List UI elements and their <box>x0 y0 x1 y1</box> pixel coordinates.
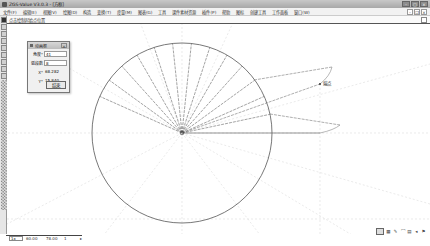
battery-icon[interactable]: ▤ <box>407 229 412 234</box>
line-tool-icon[interactable] <box>1 38 7 44</box>
info-tool-icon[interactable] <box>1 66 7 72</box>
dialog-title: 动画框 <box>35 43 47 49</box>
lower-wedge-top <box>270 114 340 125</box>
menu-graph[interactable]: 图表(G) <box>135 9 156 15</box>
lower-wedge-arc <box>320 125 340 133</box>
app-window: ZGS-Value V3.0.3 - [方框] – □ × 文件(F) 编辑(E… <box>0 0 430 246</box>
doc-close-button[interactable]: × <box>421 9 427 15</box>
menu-create-tool[interactable]: 创建工具 <box>247 9 269 15</box>
menu-file[interactable]: 文件(F) <box>0 9 20 15</box>
window-controls: – □ × <box>402 1 428 7</box>
flag-icon[interactable]: ⚑ <box>421 229 426 234</box>
title-bar: ZGS-Value V3.0.3 - [方框] – □ × <box>0 0 430 8</box>
geometry-drawing <box>7 24 430 234</box>
angle-input[interactable]: 41 <box>44 51 67 57</box>
doc-restore-button[interactable]: ❐ <box>414 9 420 15</box>
polygon-tool-icon[interactable] <box>1 45 7 51</box>
dialog-close-button[interactable]: × <box>61 43 67 48</box>
menu-transform[interactable]: 变换(T) <box>94 9 114 15</box>
window-title: ZGS-Value V3.0.3 - [方框] <box>9 1 64 7</box>
custom-tool-icon[interactable] <box>1 73 7 79</box>
menu-icons[interactable]: 图标 <box>233 9 247 15</box>
hint-bar: 点击绘制起始点位置 <box>7 16 430 24</box>
upper-wedge-top <box>254 67 332 80</box>
menu-view[interactable]: 视图(V) <box>40 9 60 15</box>
scroll-arrow-icon[interactable]: ▸ <box>80 236 82 241</box>
menu-measure[interactable]: 度量(M) <box>114 9 135 15</box>
x-row: X° 68.282 <box>28 68 69 76</box>
x-value: 68.282 <box>44 69 67 75</box>
maximize-button[interactable]: □ <box>411 1 419 7</box>
pen-icon[interactable]: ✎ <box>393 229 398 234</box>
toolbox-filler <box>1 80 7 210</box>
segments-input[interactable]: 8 <box>44 60 67 66</box>
close-button[interactable]: × <box>420 1 428 7</box>
menu-tools[interactable]: 工具 <box>155 9 169 15</box>
segments-label: 弧段数 <box>30 60 44 66</box>
document-controls: – ❐ × <box>407 9 427 15</box>
doc-minimize-button[interactable]: – <box>407 9 413 15</box>
point-tool-icon[interactable] <box>1 24 7 30</box>
animation-dialog: 动画框 × 角度° 41 弧段数 8 X° 68.282 Y° 15.840 结… <box>27 41 70 93</box>
menu-construct[interactable]: 构造 <box>80 9 94 15</box>
guide-lines <box>7 24 430 234</box>
end-point <box>319 83 321 85</box>
angle-row: 角度° 41 <box>28 50 69 58</box>
menu-panel[interactable]: 工作面板 <box>269 9 291 15</box>
menu-resources[interactable]: 课件素材资源 <box>169 9 199 15</box>
sketch-canvas[interactable]: 端点 <box>7 24 430 234</box>
minimize-button[interactable]: – <box>402 1 410 7</box>
spokes <box>100 44 270 134</box>
x-label: X° <box>30 70 44 75</box>
dialog-title-bar[interactable]: 动画框 × <box>28 42 69 49</box>
status-extra: 1 <box>64 236 67 241</box>
coord-y: 78.00 <box>46 236 57 241</box>
menu-bar: 文件(F) 编辑(E) 视图(V) 绘图(D) 构造 变换(T) 度量(M) 图… <box>0 8 430 16</box>
keyboard-icon[interactable]: ▦ <box>386 229 391 234</box>
end-point-label: 端点 <box>323 80 331 86</box>
menu-draw[interactable]: 绘图(D) <box>60 9 81 15</box>
status-bar: 1x 60.00 78.00 1 ▸ <box>0 234 430 246</box>
compass-tool-icon[interactable] <box>1 31 7 37</box>
marker-tool-icon[interactable] <box>1 59 7 65</box>
menu-plugins[interactable]: 插件(P) <box>199 9 219 15</box>
select-tool-icon[interactable] <box>1 17 7 23</box>
system-tray: ▦ ✎ ⌒ ▤ ◂ ⚑ <box>376 228 426 235</box>
finish-button[interactable]: 结束 <box>46 81 66 89</box>
text-tool-icon[interactable] <box>1 52 7 58</box>
upper-wedge-bottom <box>182 84 320 133</box>
panel-toggle-button[interactable] <box>421 17 427 23</box>
segments-row: 弧段数 8 <box>28 59 69 67</box>
menu-help[interactable]: 帮助 <box>219 9 233 15</box>
left-toolbox <box>0 16 7 234</box>
y-label: Y° <box>30 79 44 84</box>
app-icon <box>2 2 7 7</box>
volume-icon[interactable]: ◂ <box>414 229 419 234</box>
network-icon[interactable]: ⌒ <box>400 229 405 234</box>
zoom-select[interactable]: 1x <box>9 236 23 241</box>
coord-x: 60.00 <box>26 236 37 241</box>
dialog-icon <box>30 44 33 47</box>
menu-window[interactable]: 窗口(W) <box>291 9 312 15</box>
angle-label: 角度° <box>30 51 44 57</box>
hint-text: 点击绘制起始点位置 <box>9 17 45 23</box>
screen-icon[interactable] <box>376 228 384 235</box>
menu-edit[interactable]: 编辑(E) <box>20 9 40 15</box>
